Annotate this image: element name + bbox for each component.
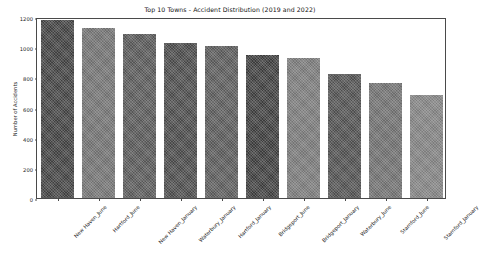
y-axis-label: Number of Accidents bbox=[12, 81, 18, 135]
bar bbox=[246, 55, 279, 198]
bar bbox=[369, 83, 402, 198]
plot-area: 020040060080010001200 bbox=[36, 18, 446, 199]
x-tick-label: Hartford_June bbox=[111, 204, 140, 233]
y-tick-label: 1000 bbox=[20, 46, 37, 52]
bars-container bbox=[37, 19, 445, 198]
y-tick-label: 800 bbox=[23, 76, 37, 82]
bar bbox=[82, 28, 115, 198]
bar bbox=[205, 46, 238, 198]
y-tick-label: 1200 bbox=[20, 16, 37, 22]
x-tick-label: New Haven_January bbox=[157, 204, 198, 245]
x-tick-label: Waterbury_June bbox=[359, 204, 392, 237]
bar bbox=[328, 74, 361, 198]
y-tick-label: 400 bbox=[23, 137, 37, 143]
bar bbox=[123, 34, 156, 198]
y-tick-label: 600 bbox=[23, 107, 37, 113]
y-tick-label: 200 bbox=[23, 167, 37, 173]
bar bbox=[410, 95, 443, 198]
x-tick-label: Waterbury_January bbox=[197, 204, 236, 243]
x-tick-label: Bridgeport_June bbox=[277, 204, 311, 238]
x-tick-label: Stamford_January bbox=[442, 204, 479, 241]
bar bbox=[41, 20, 74, 198]
y-axis-label-container: Number of Accidents bbox=[10, 18, 20, 199]
x-tick-label: New Haven_June bbox=[72, 204, 107, 239]
x-axis-labels: New Haven_JuneHartford_JuneNew Haven_Jan… bbox=[36, 201, 446, 253]
bar bbox=[287, 58, 320, 198]
chart-title: Top 10 Towns - Accident Distribution (20… bbox=[0, 6, 460, 13]
x-tick-label: Bridgeport_January bbox=[320, 204, 359, 243]
bar bbox=[164, 43, 197, 198]
x-tick-label: Hartford_January bbox=[236, 204, 271, 239]
x-tick-label: Stamford_June bbox=[399, 204, 430, 235]
